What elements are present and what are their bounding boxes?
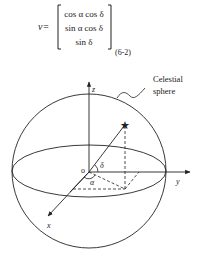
- callout-squiggle: [117, 88, 145, 98]
- projection-in-plane: [89, 172, 125, 189]
- matrix-row-3: sin δ: [76, 37, 93, 47]
- y-label: y: [175, 177, 180, 186]
- equation: v= cos α cos δ sin α cos δ sin δ (6-2): [38, 5, 131, 57]
- alpha-label: α: [90, 178, 95, 187]
- callout-line-2: sphere: [153, 86, 175, 96]
- right-bracket: [108, 5, 111, 49]
- star-icon: ★: [120, 119, 130, 131]
- equation-lhs: v=: [38, 21, 49, 32]
- z-label: z: [91, 85, 96, 94]
- delta-arc: [95, 165, 98, 172]
- callout-line-1: Celestial: [153, 74, 183, 84]
- star-vector: [89, 126, 124, 172]
- left-bracket: [58, 5, 61, 49]
- matrix-row-2: sin α cos δ: [65, 23, 103, 33]
- projection-to-y: [125, 172, 139, 189]
- x-label: x: [46, 221, 51, 230]
- delta-label: δ: [100, 161, 104, 170]
- origin-label: o: [81, 166, 85, 175]
- matrix-row-1: cos α cos δ: [64, 9, 104, 19]
- figure: v= cos α cos δ sin α cos δ sin δ (6-2) ★…: [0, 0, 200, 265]
- equation-number: (6-2): [115, 48, 131, 57]
